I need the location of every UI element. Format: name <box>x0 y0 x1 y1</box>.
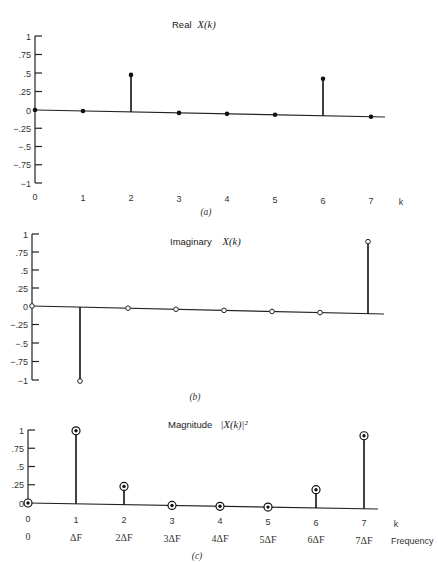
x-tick-label: 1 <box>80 193 85 203</box>
frequency-tick-label: 6ΔF <box>308 534 325 545</box>
point-c-k2 <box>122 485 125 488</box>
point-c-k3 <box>170 504 173 507</box>
point-a-k0 <box>33 108 38 113</box>
chart-title: Real <box>172 19 192 30</box>
point-a-k3 <box>177 111 182 116</box>
frequency-axis-label: Frequency <box>391 536 434 546</box>
x-tick-label: 1 <box>73 515 78 525</box>
y-tick-label: 0 <box>26 106 31 116</box>
y-tick-label: −.25 <box>13 124 31 134</box>
frequency-tick-label: ΔF <box>70 532 82 543</box>
point-b-k5 <box>270 309 275 314</box>
x-axis-a <box>35 110 385 117</box>
point-a-k2 <box>129 73 134 78</box>
x-tick-label: 0 <box>32 192 37 202</box>
point-c-k0 <box>26 501 29 504</box>
y-tick-label: −.5 <box>18 142 31 152</box>
point-c-k7 <box>362 434 365 437</box>
y-tick-label: .25 <box>11 480 24 490</box>
y-tick-label: −.25 <box>10 320 28 330</box>
y-tick-label: 1 <box>19 426 24 436</box>
frequency-tick-label: 0 <box>26 531 31 542</box>
point-a-k1 <box>81 109 86 114</box>
point-b-k6 <box>318 310 323 315</box>
x-tick-label: 0 <box>25 514 30 524</box>
x-tick-label: 6 <box>313 518 318 528</box>
x-tick-label: 7 <box>361 518 366 528</box>
y-tick-label: .75 <box>18 50 31 60</box>
x-tick-label: 7 <box>368 196 373 206</box>
panel-caption: (a) <box>200 207 211 218</box>
chart-title-math: X(k) <box>222 236 242 248</box>
y-tick-label: −1 <box>18 376 28 386</box>
chart-title: Magnitude <box>168 419 212 430</box>
y-tick-label: .25 <box>15 284 28 294</box>
point-b-k3 <box>174 307 179 312</box>
panel-caption: (c) <box>192 551 203 562</box>
y-tick-label: 0 <box>19 499 24 509</box>
y-tick-label: .75 <box>11 444 24 454</box>
frequency-tick-label: 5ΔF <box>260 534 277 545</box>
y-tick-label: −.75 <box>13 160 31 170</box>
point-a-k7 <box>369 114 374 119</box>
point-b-k2 <box>126 306 131 311</box>
x-axis-b <box>32 306 384 314</box>
point-c-k1 <box>74 429 77 432</box>
point-b-k7 <box>366 239 371 244</box>
x-tick-label: 5 <box>272 195 277 205</box>
y-tick-label: .5 <box>23 69 31 79</box>
y-tick-label: 1 <box>23 230 28 240</box>
y-tick-label: .75 <box>15 248 28 258</box>
point-c-k6 <box>314 488 317 491</box>
point-b-k4 <box>222 308 227 313</box>
point-a-k5 <box>273 113 278 118</box>
point-b-k1 <box>78 379 83 384</box>
x-tick-label: 4 <box>224 194 229 204</box>
y-tick-label: .5 <box>16 462 24 472</box>
frequency-tick-label: 7ΔF <box>356 535 373 546</box>
y-tick-label: −1 <box>21 179 31 189</box>
point-c-k4 <box>218 505 221 508</box>
frequency-tick-label: 2ΔF <box>116 532 133 543</box>
x-tick-label: 3 <box>176 194 181 204</box>
x-tick-label: 2 <box>121 515 126 525</box>
x-tick-label: 2 <box>128 193 133 203</box>
point-c-k5 <box>266 505 269 508</box>
y-tick-label: −.5 <box>15 339 28 349</box>
frequency-tick-label: 4ΔF <box>212 533 229 544</box>
x-tick-label: 5 <box>265 517 270 527</box>
y-tick-label: −.75 <box>10 357 28 367</box>
x-axis-label: k <box>394 519 399 529</box>
chart-title-math: X(k) <box>197 19 217 31</box>
x-axis-label: k <box>399 197 404 207</box>
point-a-k6 <box>321 76 326 81</box>
point-a-k4 <box>225 112 230 117</box>
point-b-k0 <box>30 304 35 309</box>
x-tick-label: 3 <box>169 516 174 526</box>
x-axis-c <box>28 503 378 509</box>
y-tick-label: .5 <box>20 266 28 276</box>
frequency-tick-label: 3ΔF <box>164 533 181 544</box>
dft-figure: 1.75.5.250−.25−.5−.75−1RealX(k)01234567k… <box>0 0 438 562</box>
panel-caption: (b) <box>189 392 200 403</box>
chart-title-math: |X(k)|² <box>221 419 249 431</box>
y-tick-label: .25 <box>18 87 31 97</box>
x-tick-label: 4 <box>217 516 222 526</box>
y-tick-label: 1 <box>26 32 31 42</box>
y-tick-label: 0 <box>23 302 28 312</box>
x-tick-label: 6 <box>320 196 325 206</box>
chart-title: Imaginary <box>170 236 212 247</box>
